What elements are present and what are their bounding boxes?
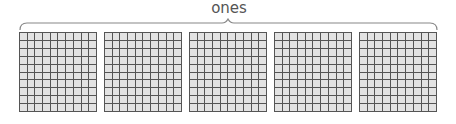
unit-cell <box>174 41 181 48</box>
unit-cell <box>35 65 42 72</box>
unit-cell <box>20 73 27 80</box>
unit-cell <box>252 80 259 87</box>
unit-cell <box>136 73 143 80</box>
unit-cell <box>298 104 305 111</box>
unit-cell <box>159 65 166 72</box>
unit-cell <box>368 80 375 87</box>
unit-cell <box>190 57 197 64</box>
unit-cell <box>429 33 436 40</box>
unit-cell <box>167 73 174 80</box>
unit-cell <box>391 104 398 111</box>
unit-cell <box>329 65 336 72</box>
unit-cell <box>252 33 259 40</box>
unit-cell <box>58 88 65 95</box>
unit-cell <box>28 88 35 95</box>
unit-cell <box>190 73 197 80</box>
unit-cell <box>35 33 42 40</box>
unit-cell <box>120 65 127 72</box>
unit-cell <box>306 49 313 56</box>
unit-cell <box>82 41 89 48</box>
unit-cell <box>422 80 429 87</box>
unit-cell <box>159 33 166 40</box>
unit-cell <box>414 33 421 40</box>
unit-cell <box>360 96 367 103</box>
unit-cell <box>151 73 158 80</box>
unit-cell <box>205 80 212 87</box>
unit-cell <box>422 96 429 103</box>
unit-cell <box>383 49 390 56</box>
unit-cell <box>429 65 436 72</box>
unit-cell <box>398 88 405 95</box>
unit-cell <box>190 33 197 40</box>
hundred-square-2 <box>104 32 182 112</box>
unit-cell <box>429 88 436 95</box>
unit-cell <box>375 65 382 72</box>
unit-cell <box>20 104 27 111</box>
unit-cell <box>120 57 127 64</box>
unit-cell <box>174 65 181 72</box>
unit-cell <box>398 96 405 103</box>
unit-cell <box>244 41 251 48</box>
unit-cell <box>221 65 228 72</box>
unit-cell <box>290 49 297 56</box>
unit-cell <box>344 96 351 103</box>
unit-cell <box>398 33 405 40</box>
unit-cell <box>66 65 73 72</box>
unit-cell <box>298 88 305 95</box>
unit-cell <box>35 73 42 80</box>
unit-cell <box>151 41 158 48</box>
unit-cell <box>368 41 375 48</box>
unit-cell <box>360 57 367 64</box>
unit-cell <box>120 73 127 80</box>
unit-cell <box>74 65 81 72</box>
unit-cell <box>344 104 351 111</box>
unit-cell <box>406 96 413 103</box>
unit-cell <box>20 57 27 64</box>
unit-cell <box>89 65 96 72</box>
unit-cell <box>329 73 336 80</box>
unit-cell <box>414 96 421 103</box>
unit-cell <box>143 104 150 111</box>
unit-cell <box>120 80 127 87</box>
unit-cell <box>298 80 305 87</box>
unit-cell <box>228 80 235 87</box>
unit-cell <box>298 41 305 48</box>
unit-cell <box>236 96 243 103</box>
unit-cell <box>74 57 81 64</box>
unit-cell <box>105 65 112 72</box>
unit-cell <box>205 96 212 103</box>
unit-cell <box>391 65 398 72</box>
unit-cell <box>275 57 282 64</box>
unit-cell <box>259 80 266 87</box>
unit-cell <box>306 96 313 103</box>
unit-cell <box>290 65 297 72</box>
unit-cell <box>205 104 212 111</box>
unit-cell <box>43 96 50 103</box>
unit-cell <box>344 88 351 95</box>
unit-cell <box>306 65 313 72</box>
unit-cell <box>74 104 81 111</box>
unit-cell <box>221 57 228 64</box>
unit-cell <box>190 41 197 48</box>
unit-cell <box>275 80 282 87</box>
unit-cell <box>74 88 81 95</box>
unit-cell <box>244 88 251 95</box>
unit-cell <box>306 33 313 40</box>
unit-cell <box>120 41 127 48</box>
unit-cell <box>120 96 127 103</box>
unit-cell <box>221 73 228 80</box>
unit-cell <box>422 65 429 72</box>
hundred-square-5 <box>359 32 437 112</box>
unit-cell <box>20 65 27 72</box>
unit-cell <box>174 104 181 111</box>
unit-cell <box>406 88 413 95</box>
unit-cell <box>66 41 73 48</box>
hundred-square-4 <box>274 32 352 112</box>
unit-cell <box>375 88 382 95</box>
unit-cell <box>414 73 421 80</box>
unit-cell <box>329 96 336 103</box>
unit-cell <box>275 49 282 56</box>
unit-cell <box>368 88 375 95</box>
unit-cell <box>275 96 282 103</box>
unit-cell <box>51 49 58 56</box>
